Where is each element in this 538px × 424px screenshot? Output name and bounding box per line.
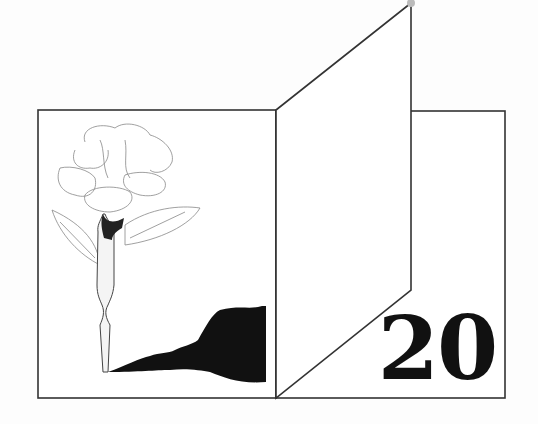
illustration: 20	[0, 0, 538, 424]
number-label: 20	[372, 300, 502, 396]
